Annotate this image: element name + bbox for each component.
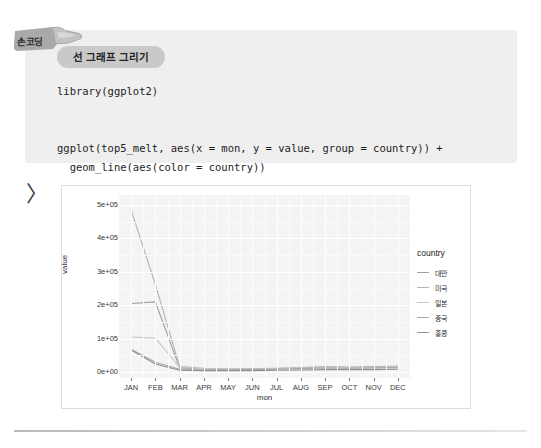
gridline-horizontal-minor bbox=[119, 355, 410, 356]
console-prompt-chevron: 〉 bbox=[26, 183, 48, 205]
x-tick-mark bbox=[325, 378, 326, 381]
legend-entry: 일본 bbox=[417, 295, 469, 310]
x-tick-mark bbox=[131, 378, 132, 381]
x-tick-mark bbox=[374, 378, 375, 381]
gridline-horizontal bbox=[119, 339, 410, 340]
x-axis-title: mon bbox=[119, 393, 410, 402]
x-tick-label: JAN bbox=[124, 383, 138, 392]
y-tick-label: 0e+00 bbox=[74, 367, 118, 376]
x-tick-label: AUG bbox=[293, 383, 309, 392]
legend-entry: 중국 bbox=[417, 310, 469, 325]
plot-panel bbox=[119, 195, 410, 378]
code-block: 선 그래프 그리기 library(ggplot2) ggplot(top5_m… bbox=[25, 30, 517, 163]
legend-line-swatch bbox=[417, 287, 429, 289]
x-tick-label: DEC bbox=[390, 383, 406, 392]
y-tick-label: 5e+05 bbox=[74, 200, 118, 209]
y-tick-label: 4e+05 bbox=[74, 233, 118, 242]
gridline-horizontal-minor bbox=[119, 322, 410, 323]
legend-entries: 대만미국일본중국홍콩 bbox=[417, 265, 469, 340]
x-tick-mark bbox=[277, 378, 278, 381]
x-tick-label: OCT bbox=[341, 383, 357, 392]
y-axis-title: value bbox=[60, 255, 69, 274]
x-tick-mark bbox=[301, 378, 302, 381]
x-tick-mark bbox=[398, 378, 399, 381]
legend-label: 홍콩 bbox=[435, 328, 447, 338]
legend-line-swatch bbox=[417, 317, 429, 319]
code-line: library(ggplot2) bbox=[57, 82, 509, 101]
legend-label: 대만 bbox=[435, 268, 447, 278]
y-axis-ticks: 0e+001e+052e+053e+054e+055e+05 bbox=[70, 186, 118, 408]
legend-label: 중국 bbox=[435, 313, 447, 323]
x-tick-mark bbox=[349, 378, 350, 381]
code-line bbox=[57, 101, 509, 120]
y-tick-label: 1e+05 bbox=[74, 334, 118, 343]
x-tick-label: JUL bbox=[270, 383, 283, 392]
legend-line-swatch bbox=[417, 302, 429, 304]
x-tick-label: SEP bbox=[318, 383, 333, 392]
x-tick-mark bbox=[155, 378, 156, 381]
chart-legend: country 대만미국일본중국홍콩 bbox=[417, 248, 469, 340]
plot-figure: value 0e+001e+052e+053e+054e+055e+05 JAN… bbox=[61, 185, 471, 409]
legend-entry: 대만 bbox=[417, 265, 469, 280]
x-tick-label: JUN bbox=[245, 383, 260, 392]
code-line bbox=[57, 120, 509, 139]
gridline-horizontal bbox=[119, 238, 410, 239]
gridline-horizontal-minor bbox=[119, 289, 410, 290]
x-tick-mark bbox=[204, 378, 205, 381]
x-tick-label: FEB bbox=[148, 383, 163, 392]
bottom-divider bbox=[14, 430, 527, 432]
x-tick-mark bbox=[228, 378, 229, 381]
gridline-horizontal bbox=[119, 205, 410, 206]
badge-label: 손코딩 bbox=[17, 34, 43, 48]
gridline-horizontal bbox=[119, 372, 410, 373]
legend-label: 일본 bbox=[435, 298, 447, 308]
x-tick-label: NOV bbox=[365, 383, 381, 392]
legend-line-swatch bbox=[417, 272, 429, 274]
legend-line-swatch bbox=[417, 332, 429, 334]
plot-area: value 0e+001e+052e+053e+054e+055e+05 JAN… bbox=[62, 186, 470, 408]
legend-entry: 홍콩 bbox=[417, 325, 469, 340]
gridline-horizontal-minor bbox=[119, 222, 410, 223]
code-lines: library(ggplot2) ggplot(top5_melt, aes(x… bbox=[57, 82, 509, 177]
x-tick-mark bbox=[252, 378, 253, 381]
x-tick-mark bbox=[180, 378, 181, 381]
x-tick-label: MAY bbox=[220, 383, 236, 392]
x-tick-label: APR bbox=[196, 383, 211, 392]
y-tick-label: 2e+05 bbox=[74, 300, 118, 309]
legend-title: country bbox=[417, 248, 469, 258]
x-tick-label: MAR bbox=[171, 383, 188, 392]
code-line: geom_line(aes(color = country)) bbox=[57, 158, 509, 177]
legend-entry: 미국 bbox=[417, 280, 469, 295]
gridline-horizontal bbox=[119, 272, 410, 273]
gridline-horizontal bbox=[119, 305, 410, 306]
code-line: ggplot(top5_melt, aes(x = mon, y = value… bbox=[57, 139, 509, 158]
gridline-horizontal-minor bbox=[119, 255, 410, 256]
legend-label: 미국 bbox=[435, 283, 447, 293]
hand-coding-badge: 손코딩 bbox=[13, 23, 85, 57]
y-tick-label: 3e+05 bbox=[74, 267, 118, 276]
